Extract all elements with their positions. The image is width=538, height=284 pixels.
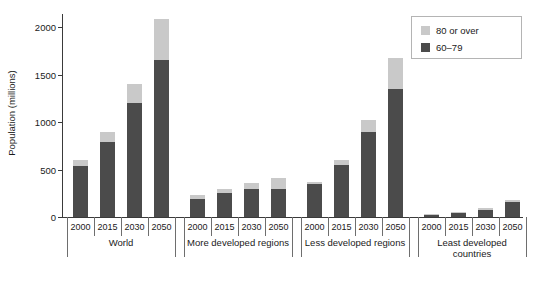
x-axis-cell-separator — [211, 217, 212, 236]
stacked-bar — [307, 182, 322, 217]
x-axis-cell-separator — [472, 217, 473, 236]
stacked-bar — [127, 84, 142, 217]
legend-label-80-or-over: 80 or over — [436, 25, 479, 36]
bar-segment-60-79 — [505, 202, 520, 217]
x-axis-year-label: 2015 — [328, 217, 355, 236]
bar-segment-60-79 — [217, 193, 232, 217]
bar-segment-80-or-over — [190, 195, 205, 199]
legend: 80 or over 60–79 — [411, 16, 522, 59]
x-axis-year-row: 2000201520302050200020152030205020002015… — [62, 217, 523, 236]
y-tick-label: 2000 — [35, 22, 56, 33]
bar-segment-80-or-over — [334, 160, 349, 165]
x-axis-area: 2000201520302050200020152030205020002015… — [62, 217, 523, 279]
x-axis-year-label: 2015 — [445, 217, 472, 236]
stacked-bar — [334, 160, 349, 217]
x-axis-cell-separator — [445, 217, 446, 236]
x-axis-year-label: 2030 — [121, 217, 148, 236]
stacked-bar — [73, 160, 88, 217]
bar-segment-80-or-over — [271, 178, 286, 189]
bar-segment-80-or-over — [361, 120, 376, 131]
y-tick-label: 0 — [51, 212, 56, 223]
x-axis-cell-separator — [499, 217, 500, 236]
y-tick-label: 1000 — [35, 117, 56, 128]
x-axis-cell-separator — [265, 217, 266, 236]
bar-segment-60-79 — [244, 189, 259, 218]
bar-segment-80-or-over — [505, 200, 520, 202]
bar-segment-80-or-over — [73, 160, 88, 166]
y-tick-label: 500 — [40, 164, 56, 175]
bar-segment-80-or-over — [244, 183, 259, 188]
x-axis-year-label: 2030 — [355, 217, 382, 236]
x-axis-year-label: 2000 — [67, 217, 94, 236]
x-axis-group-separator — [292, 217, 293, 257]
x-axis-year-label: 2050 — [382, 217, 409, 236]
x-axis-year-label: 2030 — [472, 217, 499, 236]
x-axis-cell-separator — [382, 217, 383, 236]
bar-segment-60-79 — [127, 103, 142, 217]
x-axis-cell-separator — [148, 217, 149, 236]
bar-segment-60-79 — [73, 166, 88, 217]
bar-segment-80-or-over — [478, 208, 493, 209]
stacked-bar — [478, 208, 493, 217]
bar-segment-60-79 — [100, 142, 115, 217]
bar-segment-80-or-over — [154, 19, 169, 60]
x-axis-cell-separator — [121, 217, 122, 236]
bar-segment-60-79 — [478, 210, 493, 217]
legend-item-80-or-over: 80 or over — [421, 23, 479, 37]
bar-segment-60-79 — [334, 165, 349, 217]
bar-segment-80-or-over — [307, 182, 322, 184]
bar-segment-60-79 — [307, 184, 322, 217]
x-axis-year-label: 2050 — [148, 217, 175, 236]
stacked-bar — [190, 195, 205, 217]
x-axis-cell-separator — [328, 217, 329, 236]
x-axis-cell-separator — [238, 217, 239, 236]
y-tick-mark — [58, 122, 63, 123]
legend-item-60-79: 60–79 — [421, 40, 462, 54]
y-axis-title-label: Population (millions) — [6, 70, 17, 156]
x-axis-group-separator — [526, 217, 527, 257]
stacked-bar-chart: Population (millions) 0500100015002000 2… — [0, 0, 538, 284]
x-axis-group-label: World — [67, 237, 175, 248]
y-axis-title: Population (millions) — [2, 8, 20, 218]
legend-swatch-60-79 — [421, 43, 430, 52]
bar-segment-80-or-over — [100, 132, 115, 142]
x-axis-year-label: 2015 — [94, 217, 121, 236]
stacked-bar — [271, 178, 286, 217]
bar-segment-80-or-over — [388, 58, 403, 88]
y-axis-line — [62, 14, 63, 217]
stacked-bar — [388, 58, 403, 217]
stacked-bar — [505, 200, 520, 217]
x-axis-cell-separator — [94, 217, 95, 236]
bar-segment-80-or-over — [451, 212, 466, 213]
bar-segment-60-79 — [154, 60, 169, 217]
x-axis-year-label: 2050 — [265, 217, 292, 236]
x-axis-year-label: 2000 — [184, 217, 211, 236]
bar-segment-80-or-over — [127, 84, 142, 103]
bar-segment-60-79 — [361, 132, 376, 218]
x-axis-group-label: More developed regions — [184, 237, 292, 248]
stacked-bar — [244, 183, 259, 217]
x-axis-group-label: Least developed countries — [418, 237, 526, 259]
y-tick-mark — [58, 170, 63, 171]
stacked-bar — [154, 19, 169, 217]
x-axis-year-label: 2000 — [301, 217, 328, 236]
bar-segment-60-79 — [271, 189, 286, 217]
legend-swatch-80-or-over — [421, 26, 430, 35]
x-axis-group-label: Less developed regions — [301, 237, 409, 248]
x-axis-year-label: 2000 — [418, 217, 445, 236]
stacked-bar — [361, 120, 376, 217]
y-tick-mark — [58, 27, 63, 28]
x-axis-year-label: 2015 — [211, 217, 238, 236]
legend-label-60-79: 60–79 — [436, 42, 462, 53]
bar-segment-60-79 — [388, 89, 403, 217]
y-tick-label: 1500 — [35, 69, 56, 80]
x-axis-year-label: 2030 — [238, 217, 265, 236]
x-axis-group-separator — [175, 217, 176, 257]
stacked-bar — [217, 189, 232, 217]
y-tick-mark — [58, 75, 63, 76]
x-axis-year-label: 2050 — [499, 217, 526, 236]
bar-segment-80-or-over — [217, 189, 232, 193]
x-axis-group-separator — [409, 217, 410, 257]
bar-segment-60-79 — [190, 199, 205, 217]
x-axis-cell-separator — [355, 217, 356, 236]
